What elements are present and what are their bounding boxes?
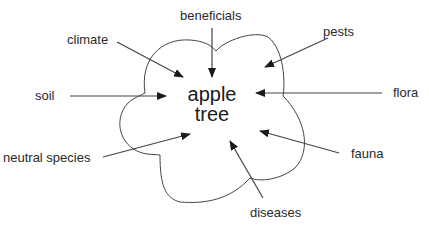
climate-arrow (117, 42, 183, 77)
pests-arrow (265, 38, 328, 67)
factor-neutral-species: neutral species (3, 151, 90, 164)
diseases-arrow (230, 141, 263, 198)
fauna-arrow (260, 131, 339, 153)
apple-tree-label: apple tree (172, 84, 252, 124)
factor-pests: pests (323, 25, 354, 38)
factor-flora: flora (393, 86, 418, 99)
factor-soil: soil (35, 89, 55, 102)
apple-tree-label-line1: apple (172, 84, 252, 104)
factor-diseases: diseases (250, 206, 301, 219)
factor-fauna: fauna (351, 147, 384, 160)
factor-climate: climate (67, 33, 108, 46)
apple-tree-label-line2: tree (172, 104, 252, 124)
diagram-canvas: apple tree beneficials climate pests soi… (0, 0, 429, 228)
factor-beneficials: beneficials (180, 9, 241, 22)
